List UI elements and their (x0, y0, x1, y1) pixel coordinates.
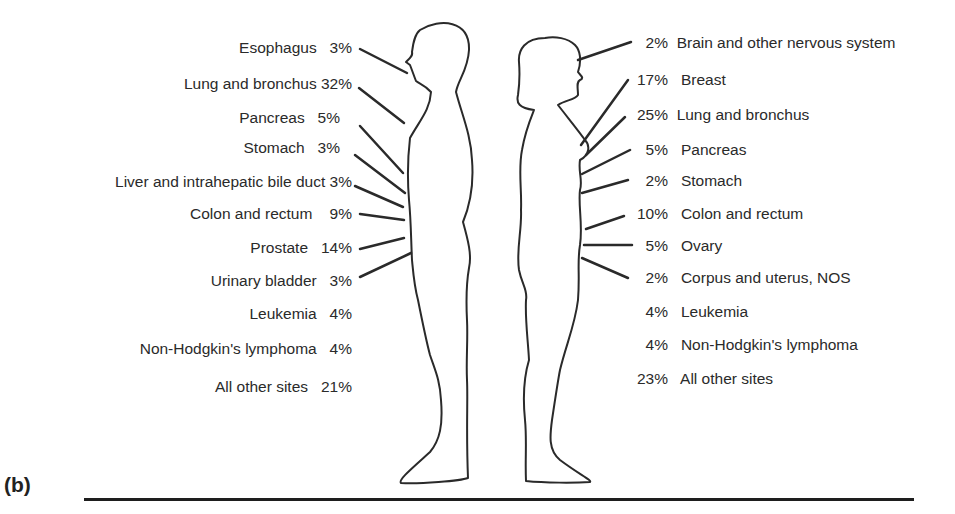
male-label-nhl: Non-Hodgkin's lymphoma 4% (140, 340, 352, 358)
site-percent: 5% (318, 109, 340, 127)
site-name: Stomach (244, 139, 305, 156)
site-percent: 2% (631, 269, 668, 287)
male-label-other: All other sites 21% (215, 378, 352, 396)
panel-label: (b) (4, 473, 31, 497)
site-name: Lung and bronchus (677, 106, 810, 123)
male-label-esophagus: Esophagus 3% (239, 39, 352, 57)
site-percent: 14% (321, 239, 352, 257)
female-label-ovary: 5% Ovary (631, 237, 722, 255)
female-leader-lines (578, 42, 632, 278)
site-percent: 17% (631, 71, 668, 89)
site-percent: 4% (631, 336, 668, 354)
female-label-pancreas: 5% Pancreas (631, 141, 746, 159)
female-silhouette (517, 37, 590, 482)
site-name: Prostate (250, 239, 308, 256)
site-percent: 3% (330, 173, 352, 191)
female-label-stomach: 2% Stomach (631, 172, 742, 190)
male-label-pancreas: Pancreas 5% (239, 109, 340, 127)
site-name: Urinary bladder (211, 272, 317, 289)
site-percent: 3% (318, 139, 340, 157)
site-percent: 21% (321, 378, 352, 396)
female-label-nhl: 4% Non-Hodgkin's lymphoma (631, 336, 858, 354)
site-name: Corpus and uterus, NOS (681, 269, 851, 286)
site-percent: 10% (631, 205, 668, 223)
divider-rule (84, 498, 914, 501)
male-label-prostate: Prostate 14% (250, 239, 352, 257)
site-name: Colon and rectum (681, 205, 803, 222)
female-label-lung: 25% Lung and bronchus (631, 106, 809, 124)
body-diagram (0, 0, 955, 514)
site-percent: 2% (640, 34, 668, 52)
site-name: Non-Hodgkin's lymphoma (140, 340, 317, 357)
female-label-other: 23% All other sites (631, 370, 773, 388)
site-percent: 3% (330, 272, 352, 290)
site-name: Pancreas (681, 141, 746, 158)
site-percent: 25% (631, 106, 668, 124)
site-percent: 23% (631, 370, 668, 388)
site-percent: 5% (631, 237, 668, 255)
site-name: Esophagus (239, 39, 317, 56)
site-percent: 2% (631, 172, 668, 190)
site-name: Lung and bronchus (184, 75, 317, 92)
site-name: All other sites (215, 378, 308, 395)
female-label-breast: 17% Breast (631, 71, 726, 89)
site-name: Leukemia (249, 305, 316, 322)
site-name: Stomach (681, 172, 742, 189)
site-name: All other sites (680, 370, 773, 387)
male-leader-lines (355, 49, 411, 277)
site-name: Ovary (681, 237, 722, 254)
site-percent: 4% (330, 340, 352, 358)
site-percent: 3% (330, 39, 352, 57)
female-label-colon: 10% Colon and rectum (631, 205, 803, 223)
site-percent: 4% (330, 305, 352, 323)
site-percent: 4% (631, 303, 668, 321)
male-label-lung: Lung and bronchus 32% (184, 75, 352, 93)
site-percent: 9% (330, 205, 352, 223)
site-name: Colon and rectum (190, 205, 312, 222)
site-name: Pancreas (239, 109, 304, 126)
site-name: Breast (681, 71, 726, 88)
male-label-bladder: Urinary bladder 3% (211, 272, 352, 290)
site-percent: 5% (631, 141, 668, 159)
male-label-liver: Liver and intrahepatic bile duct 3% (115, 173, 352, 191)
site-name: Brain and other nervous system (677, 34, 896, 51)
site-name: Liver and intrahepatic bile duct (115, 173, 325, 190)
male-label-leukemia: Leukemia 4% (249, 305, 352, 323)
female-label-corpus: 2% Corpus and uterus, NOS (631, 269, 851, 287)
male-label-stomach: Stomach 3% (244, 139, 341, 157)
female-label-leukemia: 4% Leukemia (631, 303, 748, 321)
site-percent: 32% (321, 75, 352, 93)
site-name: Non-Hodgkin's lymphoma (681, 336, 858, 353)
site-name: Leukemia (681, 303, 748, 320)
female-label-brain: 2% Brain and other nervous system (640, 34, 895, 52)
male-label-colon: Colon and rectum 9% (190, 205, 352, 223)
